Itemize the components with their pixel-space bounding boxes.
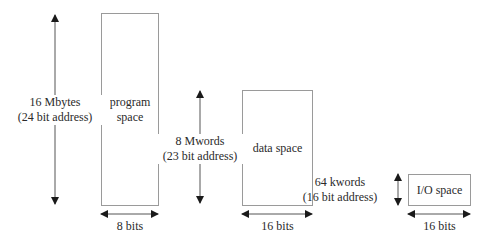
io-width-label: 16 bits [408,219,471,234]
data-size-line1: 8 Mwords [150,134,250,149]
data-space-label: data space [253,141,303,156]
data-size-line2: (23 bit address) [150,149,250,164]
io-space-label: I/O space [417,183,463,198]
program-space-label-line1: program [110,95,151,110]
io-size-line1: 64 kwords [286,175,394,190]
program-size-line1: 16 Mbytes [0,95,110,110]
program-size-line2: (24 bit address) [0,110,110,125]
program-size-label: 16 Mbytes (24 bit address) [0,95,110,125]
program-space-label-line2: space [110,110,151,125]
io-size-line2: (16 bit address) [286,190,394,205]
io-space-box: I/O space [408,174,471,206]
io-size-label: 64 kwords (16 bit address) [286,175,394,205]
program-width-label: 8 bits [101,219,159,234]
data-size-label: 8 Mwords (23 bit address) [150,134,250,164]
data-width-label: 16 bits [242,219,313,234]
